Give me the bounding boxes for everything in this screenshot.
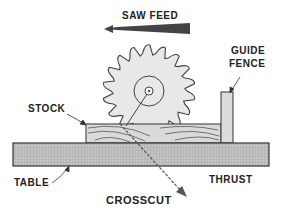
- stock: [86, 124, 221, 143]
- stock-label: STOCK: [28, 103, 65, 114]
- guide-fence-label-line1: GUIDE: [231, 45, 265, 56]
- saw-feed-arrow: [104, 23, 190, 34]
- thrust-label: THRUST: [209, 174, 253, 185]
- table-label: TABLE: [14, 177, 49, 188]
- saw-blade: [103, 45, 194, 138]
- guide-fence: [221, 92, 233, 143]
- guide-fence-label-line2: FENCE: [229, 58, 265, 69]
- diagram-title: CROSSCUT: [106, 195, 172, 206]
- saw-feed-label: SAW FEED: [122, 10, 178, 21]
- table: [13, 143, 269, 166]
